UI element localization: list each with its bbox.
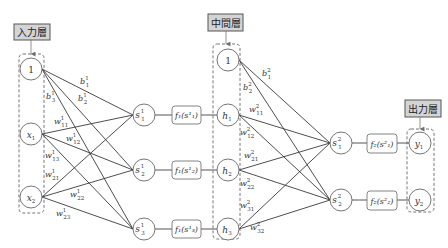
weight-label-b2-1: b21 bbox=[262, 67, 271, 80]
weight-label-w1-21: w121 bbox=[45, 168, 59, 181]
weight-label-b1-1: b11 bbox=[80, 75, 89, 88]
input-layer-label: 入力層 bbox=[17, 26, 47, 38]
weight-label-b1-3: b13 bbox=[46, 90, 56, 103]
weight-label-b1-2: b12 bbox=[78, 92, 87, 105]
activation-f1-2-label: f₁(s¹₂) bbox=[174, 166, 198, 175]
input-bias-label: 1 bbox=[28, 65, 34, 75]
hidden-layer-label: 中間層 bbox=[211, 17, 241, 29]
activation-f1-1-label: f₁(s¹₁) bbox=[174, 111, 198, 120]
weight-label-b2-2: b22 bbox=[243, 81, 252, 94]
edges-layer-1 bbox=[42, 69, 133, 229]
weight-label-w2-21: w221 bbox=[244, 149, 258, 162]
input-layer: 入力層 1 x1 x2 bbox=[14, 24, 50, 213]
weight-label-w2-31: w231 bbox=[240, 199, 254, 212]
activation-boxes-1: f₁(s¹₁) f₁(s¹₂) f₁(s¹₃) bbox=[172, 106, 201, 238]
output-sum-nodes: s21 s22 bbox=[330, 132, 352, 211]
hidden-layer-group bbox=[213, 44, 240, 239]
weight-label-w2-11: w211 bbox=[249, 103, 263, 116]
weight-label-w1-11: w111 bbox=[54, 115, 68, 128]
output-layer: 出力層 y1 y2 bbox=[405, 100, 441, 212]
weight-labels-layer-2: b21 b22 w211 w212 w221 w222 w231 w232 bbox=[240, 67, 271, 234]
weight-label-w2-32: w232 bbox=[250, 221, 264, 234]
weight-label-w1-12: w112 bbox=[66, 132, 80, 145]
weight-label-w2-22: w222 bbox=[240, 177, 254, 190]
neural-network-diagram: 入力層 1 x1 x2 s11 s12 s13 f₁(s¹₁) f₁(s¹₂) … bbox=[0, 0, 448, 248]
activation-f2-2-label: f₂(s²₂) bbox=[370, 197, 394, 206]
weight-label-w1-23: w123 bbox=[56, 207, 71, 220]
activation-boxes-2: f₂(s²₁) f₂(s²₂) bbox=[367, 134, 397, 210]
hidden-sum-nodes: s11 s12 s13 bbox=[133, 104, 155, 240]
activation-f2-1-label: f₂(s²₁) bbox=[370, 140, 394, 149]
activation-f1-3-label: f₁(s¹₃) bbox=[174, 225, 198, 234]
edges-layer-2 bbox=[239, 60, 330, 229]
hidden-bias-label: 1 bbox=[225, 56, 231, 66]
weight-label-w1-22: w122 bbox=[70, 188, 84, 201]
hidden-layer: 中間層 1 h1 h2 h3 bbox=[208, 14, 243, 240]
output-layer-label: 出力層 bbox=[408, 103, 438, 115]
